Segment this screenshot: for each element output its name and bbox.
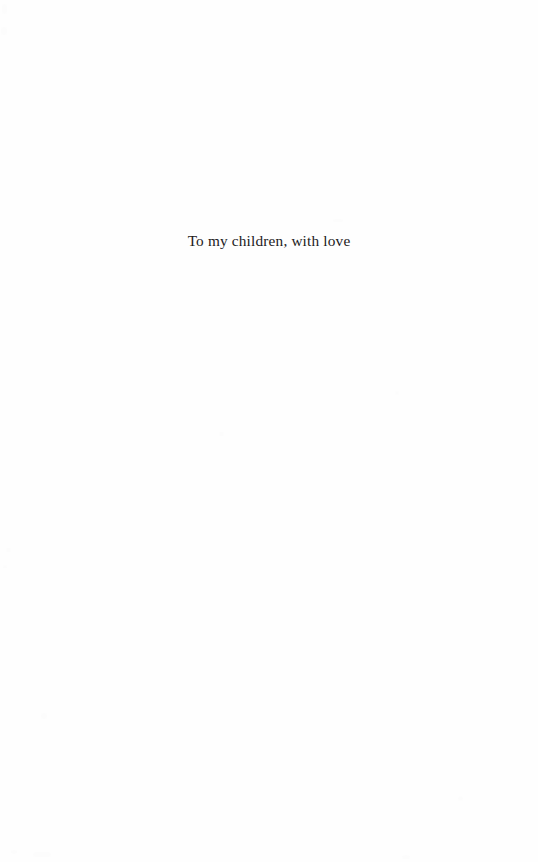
scan-artifact — [6, 548, 11, 552]
scan-artifact — [1, 27, 7, 35]
dedication-page: To my children, with love — [0, 0, 538, 862]
scan-artifact — [11, 850, 17, 854]
scan-artifact — [219, 432, 224, 436]
scan-artifact — [33, 852, 51, 857]
scan-artifact — [2, 4, 7, 14]
scan-artifact — [3, 565, 7, 568]
scan-artifact — [41, 713, 47, 719]
scan-artifact — [333, 219, 343, 222]
scan-artifact — [402, 855, 410, 859]
dedication-text: To my children, with love — [0, 231, 538, 251]
scan-artifact — [458, 796, 463, 801]
scan-artifact — [395, 391, 399, 395]
